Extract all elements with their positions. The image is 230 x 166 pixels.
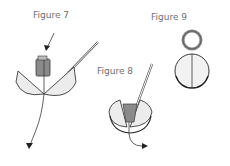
figure-7-illustration xyxy=(16,33,98,149)
arrow-down-icon xyxy=(26,143,33,149)
diagram-canvas xyxy=(0,0,230,166)
figure-8-illustration xyxy=(109,64,152,149)
arrow-down-icon xyxy=(44,45,50,51)
arrow-right-icon xyxy=(142,143,148,149)
figure-9-illustration xyxy=(175,31,209,88)
